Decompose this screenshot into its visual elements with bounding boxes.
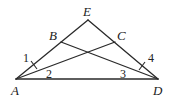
angle-label-1: 1	[23, 51, 29, 65]
angle-label-2: 2	[46, 67, 52, 81]
geometry-diagram: E B C A D 1 2 3 4	[0, 0, 171, 103]
angle-label-4: 4	[148, 51, 154, 65]
label-c: C	[117, 28, 126, 43]
label-b: B	[49, 28, 57, 43]
label-e: E	[82, 4, 91, 19]
label-a: A	[10, 83, 19, 98]
segment-ac	[16, 42, 115, 79]
label-d: D	[152, 83, 163, 98]
segment-bd	[61, 42, 158, 79]
angle-label-3: 3	[120, 67, 126, 81]
